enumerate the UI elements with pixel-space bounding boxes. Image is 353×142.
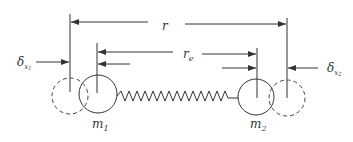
re-label: re [183, 47, 194, 63]
m2-label: m2 [250, 117, 266, 133]
r-label: r [162, 19, 169, 33]
m1-label: m1 [92, 117, 108, 133]
delta-left-label: δx1 [17, 55, 31, 71]
delta-right-label: δx2 [327, 61, 341, 77]
spring-mass-diagram: r re δx1 δx2 m1 m2 [0, 0, 353, 142]
spring-zigzag [117, 91, 238, 101]
mass-1-circle [79, 75, 117, 113]
